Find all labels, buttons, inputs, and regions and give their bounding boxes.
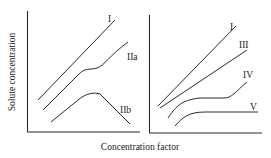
concentration-diagram: I IIa IIb I III IV V Concentration facto… bbox=[0, 0, 271, 158]
label-I-right: I bbox=[230, 22, 233, 32]
label-I-left: I bbox=[108, 14, 111, 24]
left-curve-IIa bbox=[43, 42, 128, 110]
y-axis-label: Solute concentration bbox=[7, 33, 17, 112]
right-curve-IV bbox=[168, 82, 247, 118]
left-panel: I IIa IIb bbox=[28, 11, 141, 132]
label-IV: IV bbox=[243, 70, 253, 80]
left-curve-I bbox=[38, 20, 115, 100]
label-V: V bbox=[250, 102, 257, 112]
x-axis-label: Concentration factor bbox=[101, 142, 180, 152]
label-IIb: IIb bbox=[120, 105, 131, 115]
right-panel: I III IV V bbox=[150, 15, 263, 133]
right-curve-I bbox=[158, 26, 236, 106]
left-curve-IIb bbox=[51, 93, 130, 124]
right-curve-V bbox=[175, 112, 258, 126]
label-IIa: IIa bbox=[127, 52, 138, 62]
label-III: III bbox=[239, 40, 249, 50]
